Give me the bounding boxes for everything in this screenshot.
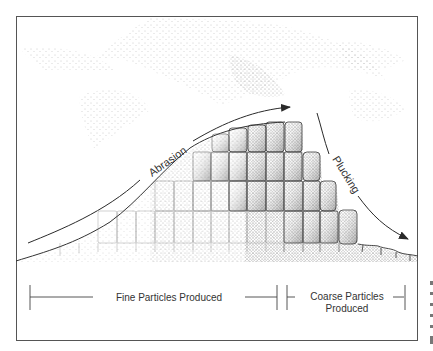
coarse-particles-label-line1: Coarse Particles [310, 291, 383, 302]
glacial-erosion-diagram: Abrasion Plucking Fine Particles Produce… [0, 0, 433, 351]
plucking-arrow-tail [317, 113, 329, 154]
plucking-arrow [358, 196, 408, 239]
fine-particles-label: Fine Particles Produced [116, 292, 222, 303]
coarse-particles-label-line2: Produced [326, 303, 369, 314]
